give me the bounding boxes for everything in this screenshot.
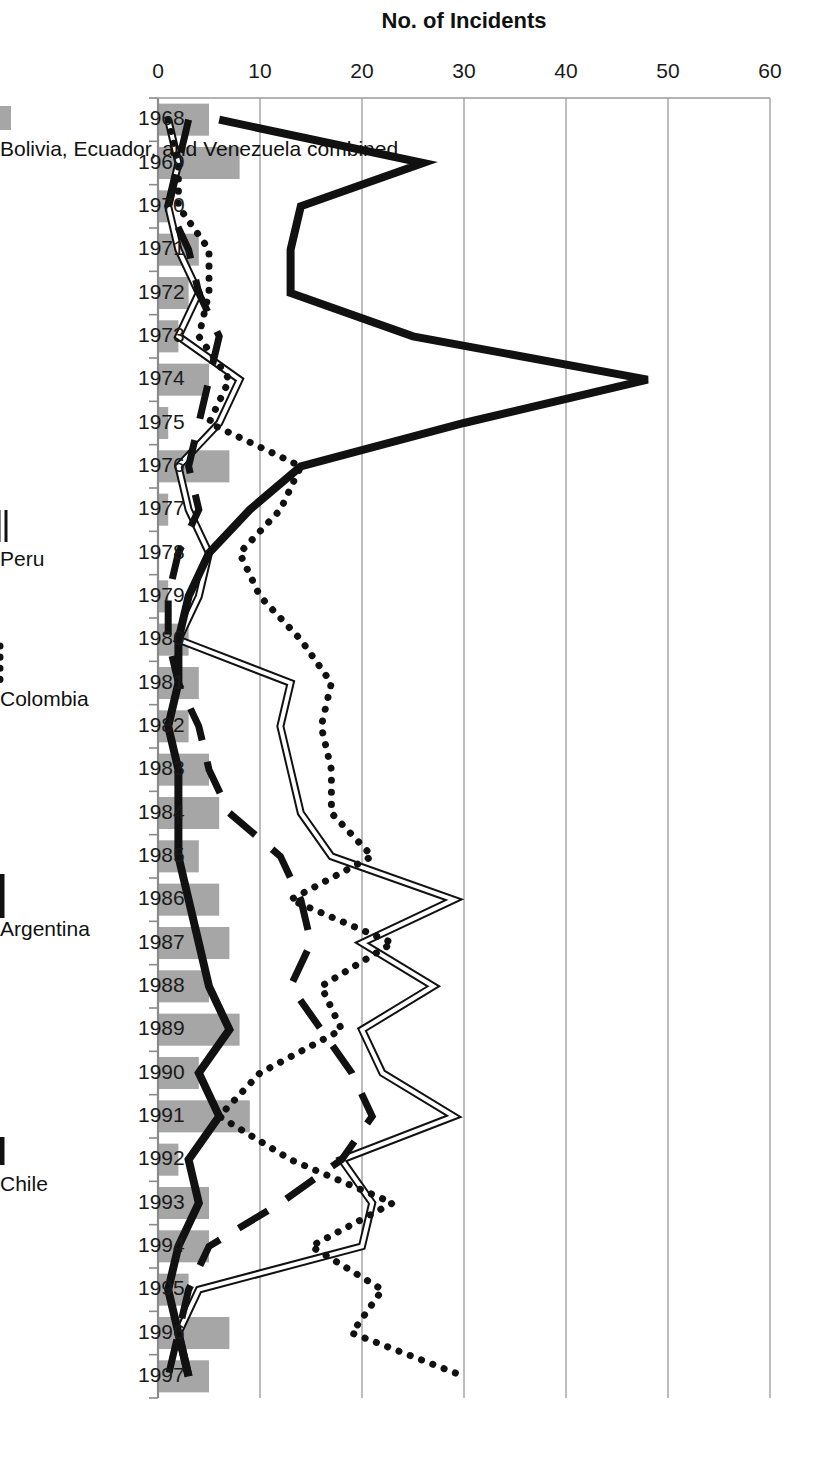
legend-label: Bolivia, Ecuador, and Venezuela combined: [0, 137, 398, 160]
x-tick-label: 1982: [138, 713, 185, 736]
legend-swatch-bar: [0, 106, 11, 130]
x-tick-label: 1972: [138, 280, 185, 303]
incidents-line-chart: 0102030405060 19681969197019711972197319…: [0, 0, 818, 1458]
y-tick-label: 30: [452, 59, 475, 82]
x-tick-label: 1986: [138, 886, 185, 909]
y-tick-label: 40: [554, 59, 577, 82]
x-tick-label: 1974: [138, 366, 185, 389]
x-tick-label: 1978: [138, 540, 185, 563]
x-tick-label: 1991: [138, 1103, 185, 1126]
x-tick-label: 1975: [138, 410, 185, 433]
y-tick-label: 10: [248, 59, 271, 82]
x-tick-label: 1992: [138, 1146, 185, 1169]
x-tick-label: 1980: [138, 626, 185, 649]
x-tick-label: 1985: [138, 843, 185, 866]
x-tick-label: 1984: [138, 800, 185, 823]
rotated-chart-container: 0102030405060 19681969197019711972197319…: [0, 0, 818, 1458]
y-tick-label: 60: [758, 59, 781, 82]
x-tick-label: 1971: [138, 236, 185, 259]
x-tick-label: 1993: [138, 1190, 185, 1213]
x-tick-label: 1979: [138, 583, 185, 606]
legend-label: Colombia: [0, 687, 89, 710]
y-axis-title: No. of Incidents: [382, 8, 547, 33]
x-tick-label: 1996: [138, 1320, 185, 1343]
x-tick-label: 1990: [138, 1060, 185, 1083]
x-tick-label: 1994: [138, 1233, 185, 1256]
x-tick-label: 1995: [138, 1276, 185, 1299]
x-tick-label: 1989: [138, 1016, 185, 1039]
y-tick-label: 20: [350, 59, 373, 82]
x-tick-label: 1973: [138, 323, 185, 346]
x-tick-label: 1983: [138, 756, 185, 779]
x-tick-label: 1968: [138, 106, 185, 129]
y-axis-title-text: No. of Incidents: [382, 8, 547, 33]
x-tick-label: 1981: [138, 670, 185, 693]
legend-label: Chile: [0, 1172, 48, 1195]
x-tick-label: 1997: [138, 1363, 185, 1386]
legend-label: Argentina: [0, 917, 90, 940]
chart-figure: 0102030405060 19681969197019711972197319…: [0, 0, 818, 1458]
y-tick-label: 50: [656, 59, 679, 82]
x-tick-label: 1988: [138, 973, 185, 996]
legend-label: Peru: [0, 547, 44, 570]
x-tick-label: 1976: [138, 453, 185, 476]
x-tick-label: 1970: [138, 193, 185, 216]
y-tick-label: 0: [152, 59, 164, 82]
x-tick-label: 1977: [138, 496, 185, 519]
x-tick-label: 1987: [138, 930, 185, 953]
chart-background: [0, 0, 818, 1458]
